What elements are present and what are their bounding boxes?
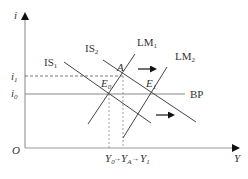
y1-label: Y1 [140, 152, 150, 166]
i0-label: i0 [11, 87, 18, 101]
arrow-2: → [131, 154, 139, 163]
is-lm-bp-diagram: i Y O i1 i0 IS1 IS2 LM1 LM2 BP A E0 E1 Y… [0, 0, 248, 179]
point-e0-label: E0 [100, 77, 112, 91]
origin-label: O [12, 144, 20, 156]
x-axis-label: Y [234, 152, 242, 164]
lm1-label: LM1 [137, 36, 158, 50]
y-axis-label: i [14, 9, 17, 21]
lm2-label: LM2 [175, 50, 196, 64]
arrow-1: → [113, 154, 121, 163]
point-e1-label: E1 [145, 77, 156, 91]
is2-label: IS2 [85, 42, 99, 56]
is1-label: IS1 [44, 56, 58, 70]
point-a-label: A [116, 61, 124, 73]
lm1-curve [88, 54, 135, 124]
i1-label: i1 [11, 70, 18, 84]
bp-label: BP [190, 88, 203, 100]
